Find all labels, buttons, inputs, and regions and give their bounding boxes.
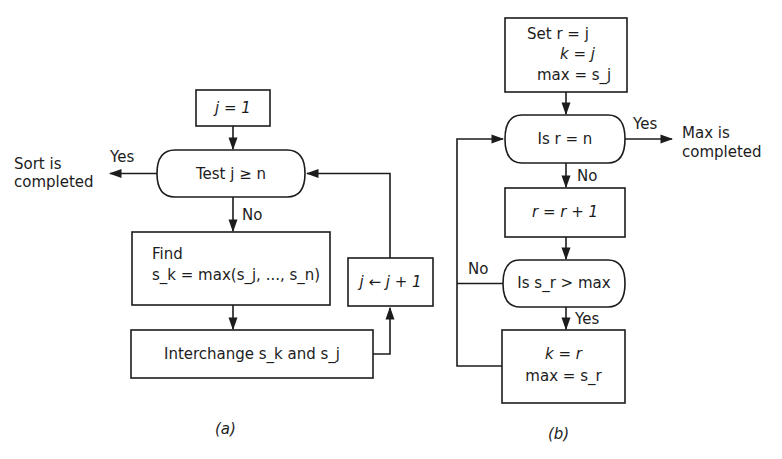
update-box-line1: k = r [502, 345, 625, 363]
increment-box: j ← j + 1 [348, 273, 433, 291]
no-label-b-left: No [468, 260, 488, 278]
find-box-line2: s_k = max(s_j, ..., s_n) [152, 266, 320, 284]
flowchart-canvas [0, 0, 782, 459]
caption-a: (a) [215, 420, 236, 438]
test-rn: Is r = n [505, 130, 625, 148]
exit-text-b-line2: completed [682, 143, 762, 161]
increment-r-box: r = r + 1 [505, 203, 625, 221]
test-node: Test j ≥ n [157, 165, 305, 183]
test-sr: Is s_r > max [503, 274, 625, 292]
exit-text-a-line1: Sort is [14, 155, 62, 173]
caption-b: (b) [548, 425, 569, 443]
start-box: j = 1 [196, 99, 270, 117]
yes-label-b-top: Yes [633, 115, 657, 133]
no-label-a: No [242, 206, 262, 224]
update-box-line2: max = s_r [502, 367, 625, 385]
set-box-line3: max = s_j [537, 66, 611, 84]
exit-text-a-line2: completed [14, 173, 94, 191]
exit-text-b-line1: Max is [682, 124, 730, 142]
interchange-box: Interchange s_k and s_j [131, 345, 373, 363]
set-box-line2: k = j [560, 45, 595, 63]
yes-label-b-bottom: Yes [575, 310, 599, 328]
yes-label-a: Yes [110, 148, 134, 166]
no-label-b-top: No [577, 167, 597, 185]
set-box-line1: Set r = j [527, 25, 589, 43]
find-box-line1: Find [152, 245, 183, 263]
